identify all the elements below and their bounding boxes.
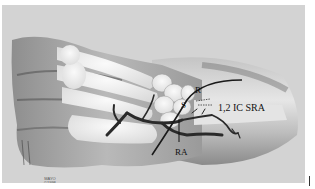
knuckle [62, 61, 86, 89]
mayo-watermark: MAYO ©1998 [44, 177, 56, 183]
label-1-2-ic-sra: 1,2 IC SRA [218, 103, 265, 113]
illustration-frame: R S 1,2 IC SRA RA MAYO ©1998 [2, 5, 305, 183]
label-ra: RA [175, 148, 188, 157]
label-r: R [195, 86, 201, 95]
label-s: S [181, 101, 186, 110]
edge-mark [309, 176, 310, 186]
wrist-anatomy-illustration [2, 5, 305, 183]
knuckle [60, 45, 80, 65]
watermark-line2: ©1998 [44, 181, 56, 183]
